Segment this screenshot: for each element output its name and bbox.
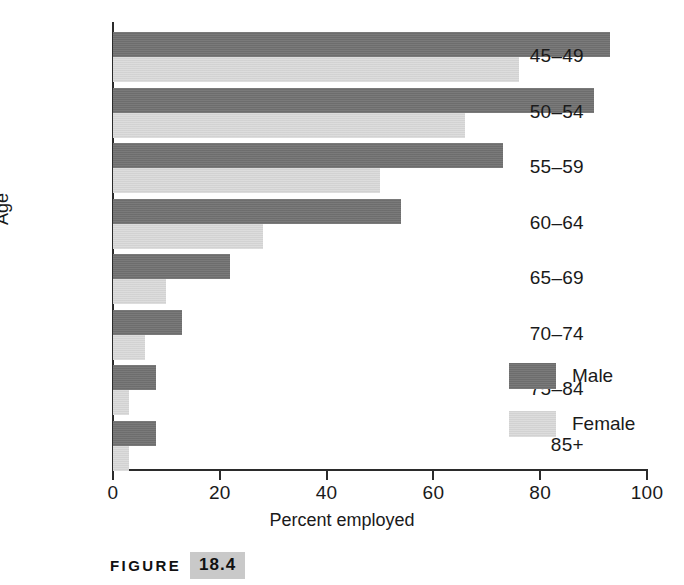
legend-label-female: Female xyxy=(572,413,635,435)
x-tick-40 xyxy=(326,471,328,480)
x-tick-60 xyxy=(432,471,434,480)
x-tick-80 xyxy=(539,471,541,480)
y-axis-title: Age xyxy=(0,193,13,225)
bar-male-65-69 xyxy=(113,254,230,279)
bar-female-60-64 xyxy=(113,224,263,249)
y-category-label-70-74: 70–74 xyxy=(530,323,584,345)
y-category-label-55-59: 55–59 xyxy=(530,156,584,178)
bar-female-70-74 xyxy=(113,335,145,360)
bar-female-55-59 xyxy=(113,168,380,193)
bar-male-50-54 xyxy=(113,88,594,113)
figure-caption: FIGURE 18.4 xyxy=(110,552,245,579)
x-tick-label-80: 80 xyxy=(529,482,551,504)
figure-caption-number: 18.4 xyxy=(190,552,245,579)
legend-swatch-male-icon xyxy=(509,363,556,389)
x-tick-label-100: 100 xyxy=(631,482,664,504)
figure-caption-word: FIGURE xyxy=(110,557,181,574)
x-tick-100 xyxy=(646,471,648,480)
bar-female-65-69 xyxy=(113,279,166,304)
chart-legend: Male Female xyxy=(509,360,635,456)
x-axis-line xyxy=(112,469,648,471)
bar-male-55-59 xyxy=(113,143,503,168)
y-category-label-50-54: 50–54 xyxy=(530,101,584,123)
y-category-label-60-64: 60–64 xyxy=(530,212,584,234)
x-tick-label-40: 40 xyxy=(316,482,338,504)
bar-male-85+ xyxy=(113,421,156,446)
legend-item-male: Male xyxy=(509,360,635,392)
x-tick-label-60: 60 xyxy=(423,482,445,504)
bar-female-75-84 xyxy=(113,390,129,415)
bar-male-70-74 xyxy=(113,310,182,335)
bar-female-85+ xyxy=(113,446,129,471)
legend-label-male: Male xyxy=(572,365,613,387)
x-tick-label-20: 20 xyxy=(209,482,231,504)
figure-18-4: 020406080100 45–4950–5455–5960–6465–6970… xyxy=(0,0,684,585)
bar-female-45-49 xyxy=(113,57,519,82)
legend-swatch-female-icon xyxy=(509,411,556,437)
bar-male-60-64 xyxy=(113,199,401,224)
x-axis-title: Percent employed xyxy=(0,510,684,531)
bar-female-50-54 xyxy=(113,113,465,138)
bar-male-75-84 xyxy=(113,365,156,390)
legend-item-female: Female xyxy=(509,408,635,440)
x-tick-0 xyxy=(112,471,114,480)
y-category-label-65-69: 65–69 xyxy=(530,267,584,289)
y-category-label-45-49: 45–49 xyxy=(530,45,584,67)
x-tick-20 xyxy=(219,471,221,480)
x-tick-label-0: 0 xyxy=(108,482,119,504)
